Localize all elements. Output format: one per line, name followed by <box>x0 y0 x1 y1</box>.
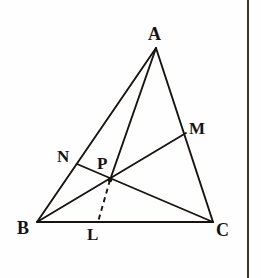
geometry-figure: A B C M N P L <box>0 0 261 278</box>
label-point-n: N <box>57 148 69 165</box>
label-point-m: M <box>189 120 205 137</box>
label-point-l: L <box>87 226 98 243</box>
page-edge-rule <box>247 0 249 278</box>
side-AB <box>37 48 156 222</box>
label-point-b: B <box>17 219 29 237</box>
label-point-a: A <box>148 25 161 43</box>
point-P-marker <box>108 178 113 183</box>
label-point-p: P <box>97 155 107 172</box>
label-point-c: C <box>216 221 229 239</box>
cevian-AP <box>110 48 156 180</box>
segment-PL-dashed <box>98 180 110 222</box>
